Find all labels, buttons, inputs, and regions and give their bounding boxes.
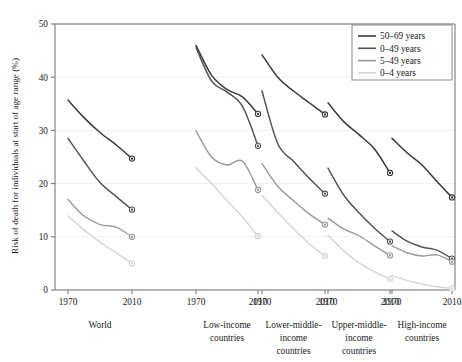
series-end-marker-core [131,209,133,211]
x-tick-label: 2010 [443,297,462,307]
legend-label[interactable]: 0–49 years [380,44,421,54]
series-end-marker-core [389,241,391,243]
panel-label: Low-income [203,320,251,330]
legend-label[interactable]: 50–69 years [380,31,426,41]
x-tick-label: 1970 [319,297,338,307]
panel-label: Upper-middle- [331,320,386,330]
series-end-marker-core [389,278,391,280]
x-tick-label: 1970 [383,297,402,307]
series-end-marker-core [451,196,453,198]
series-end-marker-core [324,255,326,257]
y-tick-label: 0 [43,285,48,295]
chart-figure: 01020304050 1970201019702010197020101970… [0,0,462,362]
legend-label[interactable]: 5–49 years [380,56,421,66]
series-end-marker-core [389,254,391,256]
series-end-marker-core [131,158,133,160]
panel-label: World [88,320,111,330]
series-end-marker-core [131,236,133,238]
series-end-marker-core [324,113,326,115]
panel-label: Lower-middle- [265,320,321,330]
series-end-marker-core [324,193,326,195]
series-end-marker-core [257,145,259,147]
risk-of-death-line-chart: 01020304050 1970201019702010197020101970… [0,0,462,362]
panel-label: countries [276,346,310,356]
panel-label: income [345,333,372,343]
series-end-marker-core [257,189,259,191]
panel-label: countries [210,333,244,343]
x-tick-label: 1970 [59,297,78,307]
series-end-marker-core [257,113,259,115]
y-tick-label: 30 [39,126,49,136]
y-tick-label: 20 [39,179,49,189]
panel-label: countries [405,333,439,343]
chart-legend[interactable]: 50–69 years0–49 years5–49 years0–4 years [352,25,452,80]
series-end-marker-core [131,262,133,264]
panel-label: countries [342,346,376,356]
panel-label: High-income [397,320,446,330]
y-tick-label: 50 [39,19,49,29]
legend-label[interactable]: 0–4 years [380,68,416,78]
series-end-marker-core [257,235,259,237]
x-tick-label: 1970 [187,297,206,307]
y-tick-label: 40 [39,73,49,83]
y-axis-label: Risk of death for individuals at start o… [10,58,20,254]
x-tick-label: 1970 [253,297,272,307]
panel-label: income [280,333,307,343]
y-tick-label: 10 [39,232,49,242]
series-end-marker-core [451,287,453,289]
series-end-marker-core [324,224,326,226]
series-end-marker-core [451,261,453,263]
x-tick-label: 2010 [123,297,142,307]
series-end-marker-core [389,172,391,174]
